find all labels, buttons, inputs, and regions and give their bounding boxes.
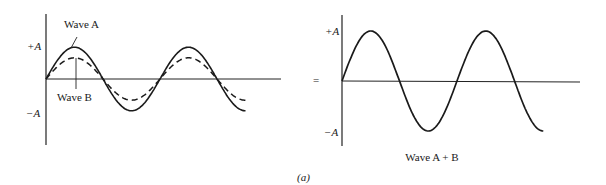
right-panel: +A −A Wave A + B [324, 15, 580, 163]
wave-superposition-figure: Wave A Wave B +A −A = +A −A Wave A + B (… [0, 0, 606, 185]
wave-a-label: Wave A [64, 18, 99, 30]
right-x-axis [342, 81, 580, 82]
left-panel: Wave A Wave B +A −A [26, 14, 281, 145]
equals-sign: = [313, 74, 319, 86]
right-plus-a-label: +A [325, 25, 339, 37]
sum-label: Wave A + B [405, 151, 458, 163]
figure-caption: (a) [297, 171, 310, 184]
left-minus-a-label: −A [26, 107, 40, 119]
wave-a-leader-line [71, 37, 77, 48]
right-minus-a-label: −A [324, 126, 338, 138]
wave-b-label: Wave B [57, 91, 92, 103]
left-plus-a-label: +A [27, 40, 41, 52]
